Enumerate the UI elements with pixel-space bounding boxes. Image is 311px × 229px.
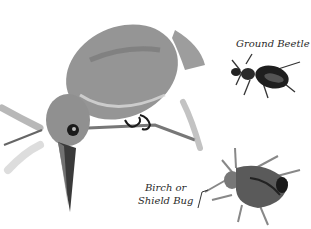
bird-head-icon <box>46 94 90 146</box>
ground-beetle-label: Ground Beetle <box>236 37 310 50</box>
pointer-stroke-icon <box>198 190 208 208</box>
shield-bug-label: Birch or Shield Bug <box>138 181 193 207</box>
left-twig-icon <box>2 108 42 170</box>
ground-beetle-icon <box>231 54 300 98</box>
illustration-canvas: Ground Beetle Birch or Shield Bug <box>0 0 311 229</box>
shield-bug-label-line2: Shield Bug <box>138 194 193 207</box>
shield-bug-label-line1: Birch or <box>138 181 193 194</box>
shield-bug-icon <box>205 148 300 225</box>
